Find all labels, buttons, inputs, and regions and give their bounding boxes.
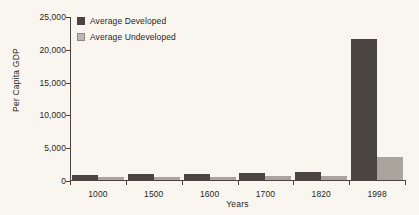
x-tick-label: 1700 bbox=[256, 189, 275, 199]
x-tick-mark bbox=[126, 180, 127, 185]
y-tick-label: 10,000 bbox=[20, 111, 66, 120]
chart-legend: Average Developed Average Undeveloped bbox=[77, 14, 176, 46]
bar-undeveloped bbox=[321, 176, 347, 180]
legend-item-undeveloped: Average Undeveloped bbox=[77, 30, 176, 43]
x-tick-mark bbox=[293, 180, 294, 185]
legend-swatch-undeveloped-icon bbox=[77, 33, 85, 41]
x-tick-label: 1600 bbox=[200, 189, 219, 199]
y-tick-label: 25,000 bbox=[20, 13, 66, 22]
y-tick-label: 15,000 bbox=[20, 78, 66, 87]
x-axis-label: Years bbox=[70, 199, 405, 209]
y-tick-label: 5,000 bbox=[20, 144, 66, 153]
y-tick-mark bbox=[66, 83, 71, 84]
bar-undeveloped bbox=[98, 177, 124, 180]
y-tick-mark bbox=[66, 50, 71, 51]
bar-undeveloped bbox=[377, 157, 403, 180]
legend-item-developed: Average Developed bbox=[77, 14, 176, 27]
x-tick-label: 1820 bbox=[312, 189, 331, 199]
y-tick-label: 0 bbox=[20, 177, 66, 186]
y-tick-mark bbox=[66, 148, 71, 149]
legend-label-undeveloped: Average Undeveloped bbox=[90, 32, 176, 42]
x-tick-label: 1500 bbox=[144, 189, 163, 199]
bar-developed bbox=[295, 172, 321, 180]
x-tick-label: 1998 bbox=[367, 189, 386, 199]
legend-swatch-developed-icon bbox=[77, 17, 85, 25]
y-tick-mark bbox=[66, 115, 71, 116]
bar-developed bbox=[184, 174, 210, 180]
bar-undeveloped bbox=[210, 177, 236, 180]
y-axis-tick-labels: 05,00010,00015,00020,00025,000 bbox=[20, 0, 66, 215]
bar-developed bbox=[72, 175, 98, 180]
bar-developed bbox=[128, 174, 154, 180]
x-tick-mark bbox=[238, 180, 239, 185]
legend-label-developed: Average Developed bbox=[90, 16, 166, 26]
bar-developed bbox=[239, 173, 265, 180]
bar-developed bbox=[351, 39, 377, 180]
bar-undeveloped bbox=[265, 176, 291, 180]
y-axis-line bbox=[70, 17, 71, 181]
bar-undeveloped bbox=[154, 177, 180, 180]
y-tick-label: 20,000 bbox=[20, 46, 66, 55]
y-tick-mark bbox=[66, 17, 71, 18]
x-tick-mark bbox=[405, 180, 406, 185]
x-tick-label: 1000 bbox=[88, 189, 107, 199]
x-tick-mark bbox=[182, 180, 183, 185]
chart-figure: Per Capita GDP 05,00010,00015,00020,0002… bbox=[0, 0, 419, 215]
x-tick-mark bbox=[349, 180, 350, 185]
x-tick-mark bbox=[70, 180, 71, 185]
